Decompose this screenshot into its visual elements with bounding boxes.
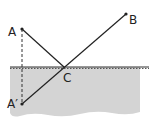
water-region [10,67,140,117]
point-b-dot [124,12,127,15]
label-a: A [8,25,17,39]
incident-ray [22,29,64,67]
reflection-diagram: A B C A′ [0,0,149,126]
label-a-image: A′ [7,97,18,111]
point-a-dot [20,27,23,30]
point-a-image-dot [20,102,23,105]
label-c: C [63,71,71,85]
label-b: B [129,13,137,27]
